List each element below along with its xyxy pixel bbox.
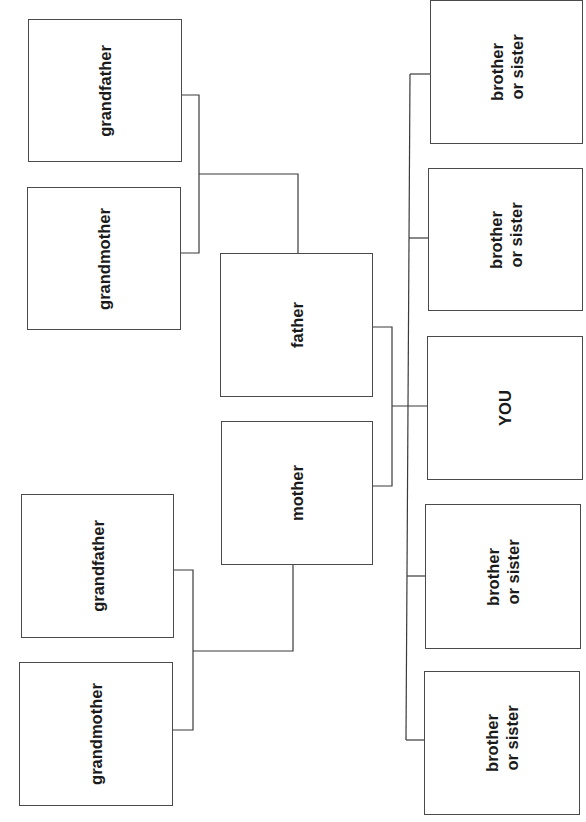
maternal-grandfather-label: grandfather [88,520,108,612]
sibling-1-label-line1: brother [487,34,507,109]
paternal-to-father-link [199,174,298,254]
paternal-grandmother-label: grandmother [94,208,114,310]
maternal-grandmother-label: grandmother [86,683,106,785]
sibling-4-label-line1: brother [483,539,503,614]
sibling-5-label: brother or sister [482,705,522,780]
mother-label: mother [287,465,307,521]
sibling-1-label-line2: or sister [507,34,527,109]
sibling-5-label-line2: or sister [502,705,522,780]
paternal-grandfather-box: grandfather [28,19,182,162]
you-label: YOU [495,390,515,426]
children-vertical-line [406,74,410,740]
you-box: YOU [427,336,583,480]
sibling-1-box: brother or sister [430,0,583,144]
father-box: father [220,253,373,397]
paternal-grandfather-label: grandfather [95,45,115,137]
sibling-5-label-line1: brother [482,705,502,780]
father-label: father [287,302,307,348]
sibling-4-label: brother or sister [483,539,523,614]
maternal-to-mother-link [193,565,293,651]
sibling-4-box: brother or sister [425,504,581,649]
sibling-2-label-line1: brother [486,202,506,277]
maternal-grandfather-box: grandfather [21,494,174,638]
sibling-2-label-line2: or sister [506,202,526,277]
sibling-4-label-line2: or sister [503,539,523,614]
paternal-grandmother-box: grandmother [27,187,181,330]
parents-bracket [373,327,392,486]
sibling-1-label: brother or sister [487,34,527,109]
sibling-2-label: brother or sister [486,202,526,277]
mother-box: mother [221,421,373,565]
maternal-grandmother-box: grandmother [19,662,173,806]
paternal-grandparents-bracket [181,95,199,253]
maternal-grandparents-bracket [173,570,193,730]
sibling-2-box: brother or sister [428,168,583,311]
sibling-5-box: brother or sister [424,671,580,815]
